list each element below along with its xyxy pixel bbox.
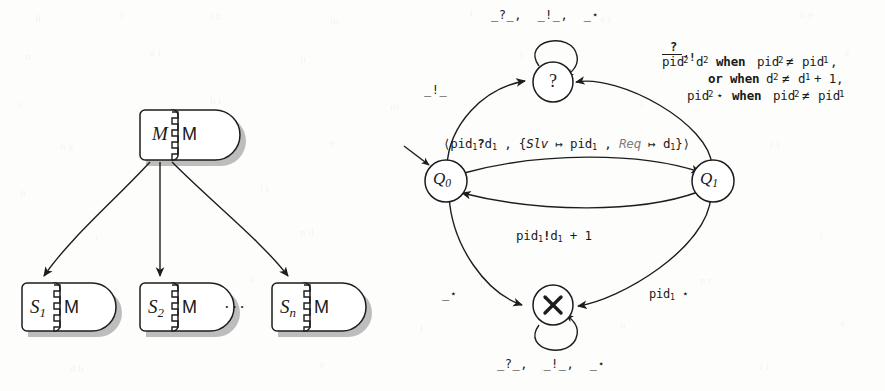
guard-chan-sub: 2 <box>683 55 688 65</box>
s2-letter: S <box>148 296 158 317</box>
q0q1-map1-key: Slv <box>526 136 548 151</box>
q0q1-datum: d <box>485 136 492 151</box>
q1-subscript: 1 <box>712 177 718 190</box>
q0q1-mapsto-2: ↦ <box>641 136 663 151</box>
guard-datum-sub: 2 <box>703 55 708 65</box>
edge-q1-to-q0 <box>462 192 698 208</box>
guard-l3-rhs-sub: 1 <box>839 89 844 99</box>
bottom-sig-c: _⋆ <box>590 357 605 371</box>
diagram-strokes <box>0 0 885 391</box>
guard-l2-lhs-sub: 2 <box>773 72 778 82</box>
q0q1-mapsto-1: ↦ <box>548 136 570 151</box>
guard-l3-chan: pid <box>687 89 709 103</box>
q0q1-recv-icon: ? <box>477 136 484 151</box>
edge-root-to-sn <box>172 162 288 276</box>
component-s1-port-label: M <box>64 297 79 317</box>
sn-letter: S <box>280 296 290 317</box>
q1cross-star: ⋆ <box>682 287 689 301</box>
edge-q1-to-cross <box>578 196 711 306</box>
guard-l1-neq: ≠ <box>786 55 793 69</box>
q0q1-map1-val: pid <box>570 136 592 151</box>
q0-letter: Q <box>433 169 445 188</box>
q1q0-plus: + 1 <box>562 228 591 243</box>
guard-l3-lhs: pid <box>773 89 795 103</box>
sn-subscript: n <box>290 305 296 320</box>
q0q1-comma-2: , <box>597 136 619 151</box>
q1-letter: Q <box>700 169 712 188</box>
guard-l2-comma: , <box>836 72 843 86</box>
bottom-selfloop-label: _?_, _!_, _⋆ <box>497 358 605 371</box>
guard-l1-rhs-sub: 1 <box>823 55 828 65</box>
guard-l1-when: when <box>716 55 745 69</box>
guard-l1-lhs: pid <box>757 55 779 69</box>
component-s1-inner-label: S1 <box>23 296 53 320</box>
q0q1-map2-key: Req <box>619 136 641 151</box>
s1-subscript: 1 <box>40 305 46 320</box>
guard-l2-plus: + 1 <box>814 72 836 86</box>
edge-label-q0-to-question: _!_ <box>424 84 447 97</box>
edge-label-q1-to-q0: pid1!d1 + 1 <box>516 229 592 245</box>
top-sig-sep1: , <box>514 8 522 22</box>
top-sig-b: _!_ <box>537 8 560 22</box>
component-root-port-label: M <box>182 124 197 144</box>
s2-subscript: 2 <box>158 305 164 320</box>
figure-canvas: ilrt h inta rh e na ilit r oe ch tint n … <box>0 0 885 391</box>
guard-l1-comma: , <box>830 55 837 69</box>
q1q0-datum: d <box>550 228 557 243</box>
q0q1-action: pid <box>450 136 472 151</box>
top-sig-a: _?_ <box>491 8 514 22</box>
q0q1-brace-close: } <box>675 136 682 151</box>
edge-root-to-s1 <box>44 162 150 276</box>
component-root-inner-label: M <box>143 123 177 144</box>
bottom-sig-sep2: , <box>567 357 575 371</box>
state-q1-label: Q1 <box>700 169 718 191</box>
component-sn-port-label: M <box>314 297 329 317</box>
guard-l3-rhs: pid <box>818 89 840 103</box>
state-q0-label: Q0 <box>433 169 451 191</box>
component-s2-port-label: M <box>182 297 197 317</box>
guard-l1-rhs: pid <box>802 55 824 69</box>
guard-l3-when: when <box>732 89 761 103</box>
edge-q0-to-question <box>447 81 525 166</box>
guard-l2-or-when: or when <box>708 72 759 86</box>
guard-recv-icon: ? <box>670 41 677 54</box>
guard-send-icon: ! <box>689 52 695 64</box>
guard-l2-neq: ≠ <box>782 72 789 86</box>
guard-l3-chan-sub: 2 <box>708 89 713 99</box>
q1cross-chan-sub: 1 <box>670 292 675 302</box>
initial-arrow <box>404 146 429 165</box>
guard-l3-neq: ≠ <box>802 89 809 103</box>
s1-letter: S <box>30 296 40 317</box>
top-sig-sep2: , <box>561 8 569 22</box>
ellipsis: ··· <box>224 298 247 317</box>
state-question-label: ? <box>543 71 563 91</box>
edge-label-q1-to-cross: pid1 ⋆ <box>649 288 689 302</box>
guard-l3-star: ⋆ <box>716 89 723 103</box>
q0-subscript: 0 <box>445 177 451 190</box>
top-selfloop-label: _?_, _!_, _⋆ <box>491 9 599 22</box>
top-sig-c: _⋆ <box>584 8 599 22</box>
edge-label-q0-to-q1: ⟨pid1?d1 , {Slv ↦ pid1 , Req ↦ d1}⟩ <box>443 137 690 153</box>
q0q1-close: ⟩ <box>683 136 690 151</box>
bottom-sig-b: _!_ <box>543 357 566 371</box>
guard-chan: pid <box>662 55 684 69</box>
edge-q0-to-q1 <box>464 157 700 173</box>
component-s2-inner-label: S2 <box>141 296 171 320</box>
q1q0-chan: pid <box>516 228 538 243</box>
bottom-sig-a: _?_ <box>497 357 520 371</box>
guard-l1-lhs-sub: 2 <box>778 55 783 65</box>
component-sn-inner-label: Sn <box>273 296 303 320</box>
q0q1-comma: , <box>497 136 519 151</box>
guard-l2-rhs-sub: 1 <box>805 72 810 82</box>
guard-l3-lhs-sub: 2 <box>794 89 799 99</box>
q1cross-chan: pid <box>649 287 670 301</box>
bottom-sig-sep1: , <box>520 357 528 371</box>
edge-label-q0-to-cross: _⋆ <box>442 288 457 301</box>
edge-q0-to-cross <box>449 196 522 305</box>
